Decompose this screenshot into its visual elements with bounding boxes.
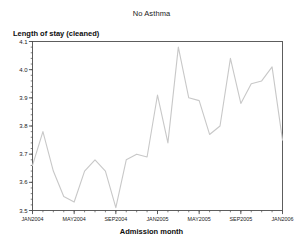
x-tick-label: JAN2004 xyxy=(21,216,43,222)
y-tick-label: 4.1 xyxy=(19,39,28,45)
y-tick-label: 3.8 xyxy=(19,123,28,129)
x-tick-label: JAN2006 xyxy=(271,216,293,222)
plot-frame xyxy=(33,42,283,211)
y-tick-label: 3.9 xyxy=(19,95,28,101)
chart-container: No Asthma Length of stay (cleaned) 3.53.… xyxy=(0,0,303,247)
y-tick-label: 4.0 xyxy=(19,67,28,73)
y-tick-label: 3.5 xyxy=(19,208,28,214)
x-tick-label: MAY2005 xyxy=(188,216,211,222)
data-series-line xyxy=(33,47,283,208)
x-tick-label: JAN2005 xyxy=(146,216,168,222)
x-tick-label: SEP2004 xyxy=(104,216,127,222)
y-tick-label: 3.6 xyxy=(19,179,28,185)
x-tick-label: MAY2004 xyxy=(63,216,86,222)
x-tick-label: SEP2005 xyxy=(229,216,252,222)
y-tick-label: 3.7 xyxy=(19,151,28,157)
plot-area: 3.53.63.73.83.94.04.1JAN2004MAY2004SEP20… xyxy=(0,0,303,247)
x-axis-title: Admission month xyxy=(0,227,303,236)
